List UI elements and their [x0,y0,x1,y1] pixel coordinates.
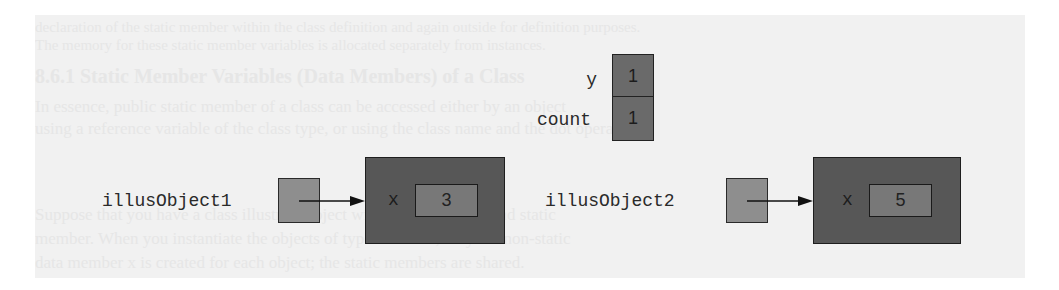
background-heading: 8.6.1 Static Member Variables (Data Memb… [35,65,1025,88]
static-member-value-count: 1 [628,108,638,129]
reference-label-2: illusObject2 [545,192,675,210]
static-member-label-y: y [586,71,597,89]
background-text-line: In essence, public static member of a cl… [35,97,1025,117]
reference-variable-box-2 [726,178,768,223]
object-instance-box-1: x 3 [365,157,505,244]
field-value-1: 3 [441,190,451,211]
reference-variable-box-1 [278,178,320,223]
field-value-box-1: 3 [415,184,478,217]
static-member-label-count: count [537,111,591,129]
background-text-line: declaration of the static member within … [35,19,1025,36]
static-member-value-y: 1 [628,66,638,87]
background-text-line: data member x is created for each object… [35,253,1025,273]
field-value-2: 5 [895,190,905,211]
background-text-line: using a reference variable of the class … [35,119,1025,139]
reference-label-1: illusObject1 [102,192,232,210]
background-text-line: The memory for these static member varia… [35,37,1025,54]
field-name-x-1: x [388,191,399,209]
object-instance-box-2: x 5 [813,157,961,244]
field-value-box-2: 5 [869,184,932,217]
static-member-cell-y: 1 [612,54,654,98]
field-name-x-2: x [842,191,853,209]
static-member-cell-count: 1 [612,96,654,141]
